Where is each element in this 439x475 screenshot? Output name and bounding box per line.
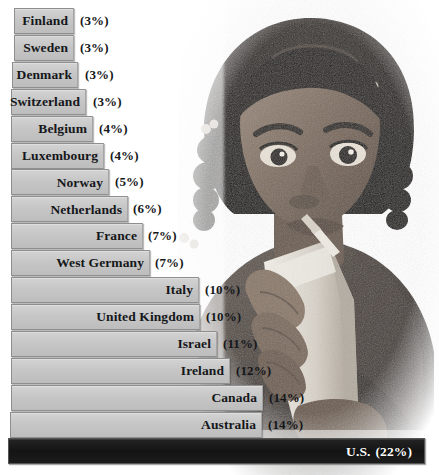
table-row: West Germany (7%) — [0, 250, 439, 276]
table-row: United Kingdom (10%) — [0, 304, 439, 330]
bar-canada[interactable]: Canada — [11, 385, 263, 411]
bar-west-germany[interactable]: West Germany — [11, 250, 150, 276]
bar-value: (3%) — [85, 62, 114, 88]
bar-value: (10%) — [205, 277, 240, 303]
bar-label: Sweden — [23, 41, 73, 55]
bar-value: (5%) — [115, 169, 144, 195]
bar-label: West Germany — [56, 256, 149, 270]
bar-value: (3%) — [93, 89, 122, 115]
milk-consumption-bar-chart: Finland (3%) Sweden (3%) Denmark (3%) Sw… — [0, 0, 439, 475]
bar-denmark[interactable]: Denmark — [12, 62, 78, 88]
bar-label: Luxembourg — [22, 149, 103, 163]
table-row: Switzerland (3%) — [0, 89, 439, 115]
bar-value: (11%) — [223, 331, 257, 357]
bar-sweden[interactable]: Sweden — [14, 35, 74, 61]
table-row: U.S. (22%) — [0, 438, 439, 464]
bar-united-kingdom[interactable]: United Kingdom — [11, 304, 200, 330]
table-row: Finland (3%) — [0, 8, 439, 34]
table-row: Australia (14%) — [0, 412, 439, 438]
bar-label: Ireland — [181, 364, 229, 378]
bar-label: Switzerland — [10, 95, 85, 109]
table-row: Ireland (12%) — [0, 358, 439, 384]
table-row: Denmark (3%) — [0, 62, 439, 88]
bar-italy[interactable]: Italy — [11, 277, 199, 303]
bar-value: (10%) — [206, 304, 241, 330]
table-row: Canada (14%) — [0, 385, 439, 411]
bar-label: Belgium — [38, 122, 92, 136]
bar-label: France — [96, 229, 142, 243]
bar-value: (14%) — [268, 412, 303, 438]
table-row: Belgium (4%) — [0, 116, 439, 142]
bar-luxembourg[interactable]: Luxembourg — [11, 143, 104, 169]
bar-label: Netherlands — [50, 203, 127, 217]
bar-value: (7%) — [155, 250, 184, 276]
table-row: Italy (10%) — [0, 277, 439, 303]
bar-ireland[interactable]: Ireland — [11, 358, 230, 384]
bar-label: Italy — [166, 283, 199, 297]
bar-israel[interactable]: Israel — [11, 331, 217, 357]
bar-value: (22%) — [376, 445, 425, 459]
bar-value: (4%) — [99, 116, 128, 142]
bar-value: (6%) — [133, 196, 162, 222]
table-row: Sweden (3%) — [0, 35, 439, 61]
bar-value: (14%) — [269, 385, 304, 411]
bar-value: (7%) — [148, 223, 177, 249]
bar-norway[interactable]: Norway — [11, 169, 109, 195]
bar-label: Australia — [201, 418, 261, 432]
bar-australia[interactable]: Australia — [10, 412, 262, 438]
bar-france[interactable]: France — [11, 223, 143, 249]
bar-label: U.S. — [346, 445, 375, 459]
bar-value: (4%) — [110, 143, 139, 169]
bar-label: Finland — [22, 14, 73, 28]
bar-value: (3%) — [80, 35, 109, 61]
table-row: Israel (11%) — [0, 331, 439, 357]
bar-label: Canada — [211, 391, 262, 405]
bar-us[interactable]: U.S. (22%) — [8, 438, 425, 464]
bar-label: United Kingdom — [96, 310, 199, 324]
bar-finland[interactable]: Finland — [14, 8, 74, 34]
bar-value: (12%) — [236, 358, 271, 384]
bar-value: (3%) — [80, 8, 109, 34]
bar-label: Israel — [177, 337, 216, 351]
bar-label: Denmark — [17, 68, 77, 82]
table-row: Norway (5%) — [0, 169, 439, 195]
bar-belgium[interactable]: Belgium — [11, 116, 93, 142]
bar-netherlands[interactable]: Netherlands — [11, 196, 128, 222]
table-row: Luxembourg (4%) — [0, 143, 439, 169]
bar-label: Norway — [57, 176, 108, 190]
bar-switzerland[interactable]: Switzerland — [11, 89, 86, 115]
table-row: France (7%) — [0, 223, 439, 249]
table-row: Netherlands (6%) — [0, 196, 439, 222]
